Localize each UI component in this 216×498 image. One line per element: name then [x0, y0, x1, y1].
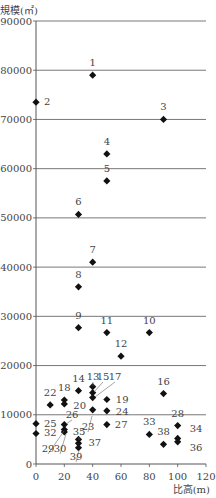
y-tick-label: 60000: [0, 163, 32, 174]
y-tick-label: 30000: [0, 311, 32, 322]
point-label: 26: [66, 409, 79, 420]
data-point: [174, 422, 181, 429]
point-label: 33: [143, 416, 156, 427]
point-label: 32: [44, 427, 57, 438]
point-label: 12: [115, 338, 128, 349]
point-label: 11: [100, 315, 113, 326]
point-label: 14: [72, 373, 85, 384]
x-tick-label: 80: [143, 471, 156, 482]
point-label: 30: [54, 443, 67, 454]
y-tick-label: 0: [26, 459, 32, 470]
y-tick-label: 20000: [0, 360, 32, 371]
point-label: 1: [89, 57, 95, 68]
data-point: [103, 177, 110, 184]
data-point: [160, 390, 167, 397]
point-label: 29: [42, 443, 55, 454]
point-label: 38: [157, 426, 170, 437]
point-label: 6: [75, 196, 81, 207]
point-label: 15: [97, 371, 110, 382]
data-point: [117, 353, 124, 360]
point-label: 39: [70, 451, 83, 462]
point-label: 2: [44, 96, 50, 107]
point-label: 35: [73, 426, 86, 437]
point-label: 3: [160, 101, 166, 112]
y-tick-label: 10000: [0, 409, 32, 420]
data-point: [32, 420, 39, 427]
point-label: 18: [58, 382, 71, 393]
point-label: 4: [104, 136, 110, 147]
point-label: 7: [89, 244, 95, 255]
data-point: [103, 421, 110, 428]
data-point: [89, 406, 96, 413]
data-point: [75, 283, 82, 290]
point-label: 37: [89, 437, 102, 448]
data-point: [103, 329, 110, 336]
data-point: [146, 329, 153, 336]
data-point: [61, 400, 68, 407]
point-label: 22: [44, 387, 57, 398]
x-tick-label: 60: [115, 471, 128, 482]
x-tick-label: 40: [86, 471, 99, 482]
point-label: 24: [116, 406, 129, 417]
data-point: [32, 99, 39, 106]
point-label: 8: [75, 269, 81, 280]
data-point: [32, 430, 39, 437]
y-tick-label: 50000: [0, 212, 32, 223]
point-label: 9: [75, 310, 81, 321]
scatter-chart: 規模(㎡) 0100002000030000400005000060000700…: [0, 0, 216, 498]
y-tick-label: 90000: [0, 16, 32, 27]
point-label: 19: [116, 394, 129, 405]
data-point: [160, 441, 167, 448]
point-label: 10: [143, 315, 156, 326]
y-axis-label: 規模(㎡): [0, 2, 38, 17]
data-point: [75, 387, 82, 394]
x-axis-label: 比高(m): [173, 481, 210, 496]
x-tick-label: 20: [58, 471, 71, 482]
data-point: [146, 431, 153, 438]
y-tick-label: 80000: [0, 65, 32, 76]
point-label: 28: [171, 408, 184, 419]
point-label: 16: [157, 376, 170, 387]
point-label: 27: [115, 419, 128, 430]
leader-line: [95, 382, 115, 397]
data-point: [103, 150, 110, 157]
point-label: 34: [190, 423, 203, 434]
data-point: [103, 396, 110, 403]
data-point: [89, 72, 96, 79]
point-label: 17: [109, 371, 122, 382]
y-tick-label: 40000: [0, 262, 32, 273]
data-point: [47, 401, 54, 408]
plot-area: 0100002000030000400005000060000700008000…: [0, 0, 216, 498]
point-label: 36: [190, 442, 203, 453]
data-point: [75, 211, 82, 218]
data-point: [89, 394, 96, 401]
data-point: [89, 259, 96, 266]
data-point: [160, 116, 167, 123]
data-point: [103, 407, 110, 414]
leader-line: [66, 420, 72, 424]
point-label: 5: [104, 163, 110, 174]
data-point: [75, 324, 82, 331]
y-tick-label: 70000: [0, 114, 32, 125]
x-tick-label: 0: [33, 471, 39, 482]
